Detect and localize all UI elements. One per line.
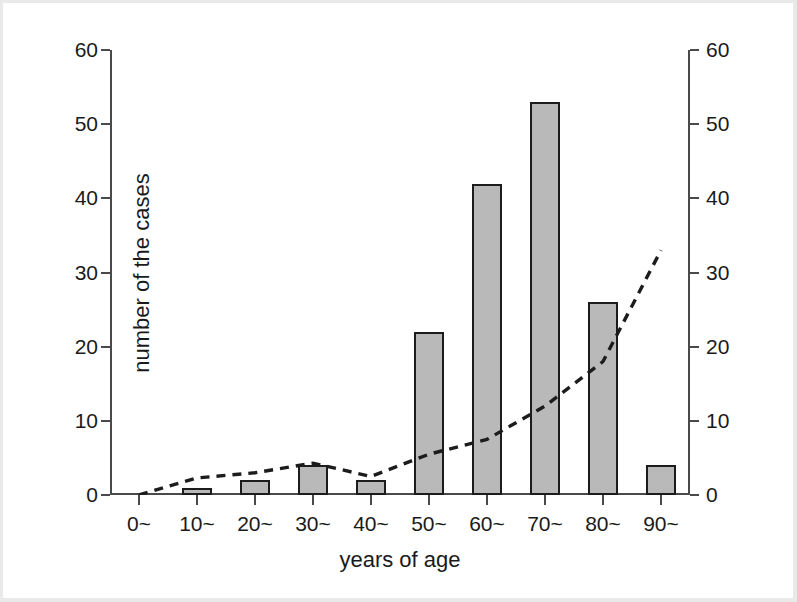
right-tick-label: 10 (706, 410, 729, 431)
x-tick-mark (486, 495, 488, 505)
left-tick-mark (101, 420, 110, 422)
x-tick-label: 30~ (295, 512, 331, 536)
left-tick-mark (101, 346, 110, 348)
bar-series-layer (110, 50, 690, 495)
left-tick-label: 20 (75, 336, 98, 357)
x-tick-mark (660, 495, 662, 505)
right-tick-mark (690, 272, 699, 274)
right-tick-label: 20 (706, 336, 729, 357)
scan-edge-top (0, 0, 797, 3)
scan-edge-bottom (0, 598, 797, 602)
x-tick-mark (544, 495, 546, 505)
plot-area: 0102030405060 0102030405060 0~10~20~30~4… (110, 50, 690, 495)
right-tick-mark (690, 346, 699, 348)
left-tick-label: 50 (75, 113, 98, 134)
x-tick-mark (602, 495, 604, 505)
left-tick-mark (101, 494, 110, 496)
x-tick-label: 40~ (353, 512, 389, 536)
bar (240, 480, 270, 495)
x-tick-mark (370, 495, 372, 505)
left-tick-mark (101, 123, 110, 125)
left-tick-mark (101, 49, 110, 51)
x-tick-label: 0~ (127, 512, 151, 536)
right-tick-mark (690, 420, 699, 422)
right-tick-mark (690, 197, 699, 199)
left-tick-label: 0 (86, 484, 98, 505)
x-tick-label: 10~ (179, 512, 215, 536)
right-tick-label: 60 (706, 39, 729, 60)
x-tick-label: 70~ (527, 512, 563, 536)
bottom-axis-title: years of age (110, 547, 690, 573)
bar (588, 302, 618, 495)
x-tick-mark (254, 495, 256, 505)
left-tick-mark (101, 197, 110, 199)
left-tick-label: 40 (75, 187, 98, 208)
left-tick-label: 30 (75, 262, 98, 283)
left-tick-label: 10 (75, 410, 98, 431)
x-tick-label: 20~ (237, 512, 273, 536)
right-tick-label: 30 (706, 262, 729, 283)
bar (646, 465, 676, 495)
right-tick-mark (690, 49, 699, 51)
scan-edge-left (0, 0, 3, 602)
x-tick-label: 50~ (411, 512, 447, 536)
left-axis-title: number of the cases (129, 173, 155, 372)
x-tick-label: 80~ (585, 512, 621, 536)
x-tick-label: 60~ (469, 512, 505, 536)
right-tick-mark (690, 123, 699, 125)
bar (182, 488, 212, 495)
x-tick-mark (428, 495, 430, 505)
scan-edge-right (793, 0, 797, 602)
left-tick-label: 60 (75, 39, 98, 60)
x-tick-mark (312, 495, 314, 505)
bar (530, 102, 560, 495)
left-tick-mark (101, 272, 110, 274)
chart-page: 0102030405060 0102030405060 0~10~20~30~4… (0, 0, 797, 602)
right-tick-mark (690, 494, 699, 496)
bar (356, 480, 386, 495)
bar (414, 332, 444, 495)
right-tick-label: 40 (706, 187, 729, 208)
x-tick-mark (196, 495, 198, 505)
x-tick-label: 90~ (643, 512, 679, 536)
right-tick-label: 50 (706, 113, 729, 134)
bar (472, 184, 502, 496)
right-tick-label: 0 (706, 484, 718, 505)
bar (298, 465, 328, 495)
x-tick-mark (138, 495, 140, 505)
